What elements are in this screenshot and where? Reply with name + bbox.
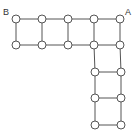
graph-node: [91, 68, 99, 76]
graph-edges: [16, 19, 121, 125]
graph-node: [64, 15, 72, 23]
graph-node: [38, 15, 46, 23]
graph-node: [116, 41, 124, 49]
label-b: B: [3, 8, 9, 17]
graph-node: [90, 41, 98, 49]
graph-node: [12, 41, 20, 49]
graph-node: [117, 94, 125, 102]
graph-node: [90, 15, 98, 23]
graph-node: [38, 41, 46, 49]
graph-node: [116, 15, 124, 23]
graph-node: [117, 68, 125, 76]
label-a: A: [125, 8, 131, 17]
graph-node: [12, 15, 20, 23]
graph-node: [117, 121, 125, 129]
graph-node: [91, 121, 99, 129]
grid-graph-diagram: [0, 0, 137, 136]
graph-node: [64, 41, 72, 49]
graph-node: [91, 94, 99, 102]
